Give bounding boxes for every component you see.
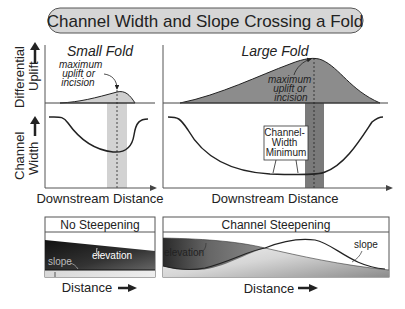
fold-diagram: Channel Width and Slope Crossing a Fold … bbox=[0, 0, 405, 309]
no-steepening-panel: No Steepening elevation slope Distance bbox=[45, 217, 155, 295]
large-fold-title: Large Fold bbox=[242, 43, 310, 59]
large-fold-annotation: maximum uplift or incision bbox=[268, 74, 314, 103]
arrow-right-icon bbox=[128, 284, 137, 292]
slope-label: slope bbox=[354, 239, 378, 250]
diagram-title: Channel Width and Slope Crossing a Fold bbox=[47, 12, 364, 31]
svg-text:Uplift: Uplift bbox=[26, 61, 41, 91]
arrow-right-icon bbox=[309, 284, 318, 292]
small-fold-title: Small Fold bbox=[67, 43, 134, 59]
slope-label: slope bbox=[48, 256, 72, 267]
elevation-label: elevation bbox=[164, 247, 204, 258]
small-fold-annotation: maximum uplift or incision bbox=[59, 59, 105, 88]
small-fold-panel: Small Fold maximum uplift or incision Do… bbox=[36, 43, 163, 206]
channel-steepening-title: Channel Steepening bbox=[222, 218, 331, 232]
elevation-label: elevation bbox=[92, 250, 132, 261]
small-fold-xlabel: Downstream Distance bbox=[36, 191, 163, 206]
svg-text:Width: Width bbox=[26, 142, 41, 175]
title-banner: Channel Width and Slope Crossing a Fold bbox=[47, 8, 364, 33]
large-fold-xlabel: Downstream Distance bbox=[211, 191, 338, 206]
no-steepening-xlabel: Distance bbox=[62, 280, 113, 295]
channel-steepening-xlabel: Distance bbox=[244, 281, 295, 296]
y-axis-width: Channel Width bbox=[12, 116, 41, 180]
large-fold-panel: Large Fold maximum uplift or incision Ch… bbox=[163, 43, 393, 206]
no-steepening-title: No Steepening bbox=[60, 218, 139, 232]
channel-steepening-panel: Channel Steepening elevation slope Dista… bbox=[163, 217, 389, 296]
svg-text:Differential: Differential bbox=[12, 46, 27, 108]
y-axis-uplift: Differential Uplift bbox=[12, 42, 41, 108]
svg-text:Channel: Channel bbox=[12, 131, 27, 180]
